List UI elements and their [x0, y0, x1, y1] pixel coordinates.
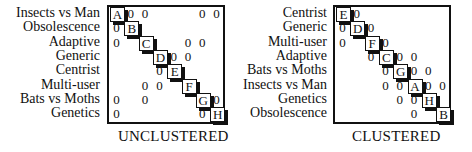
- row-label: Centrist: [283, 6, 327, 20]
- zero-cell: 0: [182, 36, 195, 50]
- row-label: Obsolescence: [250, 106, 327, 120]
- row-label: Genetics: [51, 106, 100, 120]
- diagonal-cell: C: [379, 50, 394, 65]
- zero-cell: 0: [379, 79, 392, 93]
- row-label: Genetics: [278, 92, 327, 106]
- row-label: Adaptive: [49, 35, 100, 49]
- zero-cell: 0: [365, 21, 378, 35]
- diagonal-cell: G: [196, 93, 211, 108]
- zero-cell: 0: [379, 36, 392, 50]
- unclustered-matrix: ABCDEFGH000000000000000000: [107, 5, 225, 124]
- diagonal-cell: E: [167, 64, 182, 79]
- row-label: Multi-user: [268, 35, 327, 49]
- row-label: Obsolescence: [23, 20, 100, 34]
- diagonal-cell: C: [139, 36, 154, 51]
- diagonal-cell: D: [350, 21, 365, 36]
- clustered-matrix: EDFCGAHB000000000000000000: [333, 5, 451, 124]
- clustered-row-labels: CentristGenericMulti-userAdaptiveBats vs…: [236, 6, 327, 126]
- zero-cell: 0: [124, 7, 137, 21]
- unclustered-row-labels: Insects vs ManObsolescenceAdaptiveGeneri…: [0, 6, 100, 126]
- zero-cell: 0: [436, 79, 449, 93]
- zero-cell: 0: [422, 64, 435, 78]
- unclustered-caption: UNCLUSTERED: [118, 128, 229, 145]
- diagonal-cell: B: [436, 107, 451, 122]
- row-label: Bats vs Moths: [247, 63, 327, 77]
- zero-cell: 0: [408, 50, 421, 64]
- diagonal-cell: F: [365, 36, 380, 51]
- diagonal-cell: H: [210, 107, 225, 122]
- diagonal-cell: D: [153, 50, 168, 65]
- row-label: Insects vs Man: [243, 78, 327, 92]
- zero-cell: 0: [336, 21, 349, 35]
- row-label: Generic: [56, 49, 100, 63]
- zero-cell: 0: [393, 93, 406, 107]
- zero-cell: 0: [196, 7, 209, 21]
- diagonal-cell: F: [182, 79, 197, 94]
- zero-cell: 0: [365, 50, 378, 64]
- diagonal-cell: G: [393, 64, 408, 79]
- clustered-caption: CLUSTERED: [352, 128, 440, 145]
- zero-cell: 0: [167, 50, 180, 64]
- zero-cell: 0: [139, 7, 152, 21]
- zero-cell: 0: [350, 7, 363, 21]
- zero-cell: 0: [196, 107, 209, 121]
- zero-cell: 0: [110, 93, 123, 107]
- zero-cell: 0: [139, 79, 152, 93]
- zero-cell: 0: [139, 93, 152, 107]
- zero-cell: 0: [210, 93, 223, 107]
- diagonal-cell: B: [124, 21, 139, 36]
- diagonal-cell: E: [336, 7, 351, 22]
- zero-cell: 0: [422, 79, 435, 93]
- row-label: Insects vs Man: [16, 6, 100, 20]
- row-label: Bats vs Moths: [20, 92, 100, 106]
- diagonal-cell: H: [422, 93, 437, 108]
- row-label: Adaptive: [276, 49, 327, 63]
- row-label: Generic: [283, 20, 327, 34]
- zero-cell: 0: [153, 64, 166, 78]
- zero-cell: 0: [110, 107, 123, 121]
- zero-cell: 0: [379, 64, 392, 78]
- row-label: Centrist: [56, 63, 100, 77]
- zero-cell: 0: [336, 36, 349, 50]
- zero-cell: 0: [153, 79, 166, 93]
- zero-cell: 0: [210, 7, 223, 21]
- diagonal-cell: A: [110, 7, 125, 22]
- zero-cell: 0: [196, 36, 209, 50]
- zero-cell: 0: [110, 21, 123, 35]
- zero-cell: 0: [393, 50, 406, 64]
- zero-cell: 0: [408, 93, 421, 107]
- zero-cell: 0: [393, 79, 406, 93]
- row-label: Multi-user: [41, 78, 100, 92]
- zero-cell: 0: [182, 50, 195, 64]
- diagonal-cell: A: [408, 79, 423, 94]
- zero-cell: 0: [408, 107, 421, 121]
- zero-cell: 0: [408, 64, 421, 78]
- zero-cell: 0: [110, 36, 123, 50]
